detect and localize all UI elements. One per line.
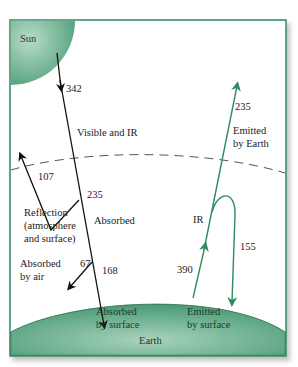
absorbed-by-surface-label-line-1: Absorbed xyxy=(96,306,138,317)
ir-label: IR xyxy=(193,214,204,225)
back-radiation-value: 155 xyxy=(240,241,256,252)
absorbed-by-air-value: 67 xyxy=(80,258,91,269)
emitted-by-earth-label-line-2: by Earth xyxy=(233,138,270,149)
absorbed-by-surface-value: 168 xyxy=(102,265,118,276)
reflected-value: 107 xyxy=(38,171,54,182)
absorbed-by-air-label-line-2: by air xyxy=(20,271,45,282)
emitted-by-surface-label-line-2: by surface xyxy=(187,319,231,330)
emitted-by-earth-label-line-1: Emitted xyxy=(233,125,267,136)
sun-label: Sun xyxy=(20,33,37,44)
energy-balance-diagram: Sun 342 Visible and IR 107 235 Reflectio… xyxy=(0,0,298,367)
reflection-label-line-2: (atmosphere xyxy=(24,220,76,232)
solar-input-value: 342 xyxy=(66,83,82,94)
absorbed-by-air-label-line-1: Absorbed xyxy=(20,258,62,269)
reflection-label-line-1: Reflection xyxy=(24,207,68,218)
absorbed-label: Absorbed xyxy=(94,215,136,226)
reflection-label-line-3: and surface) xyxy=(24,233,76,245)
absorbed-total-value: 235 xyxy=(87,189,103,200)
absorbed-by-surface-label-line-2: by surface xyxy=(96,319,140,330)
emitted-by-earth-value: 235 xyxy=(235,101,251,112)
emitted-by-surface-label-line-1: Emitted xyxy=(187,306,221,317)
earth-label: Earth xyxy=(139,335,162,346)
visible-ir-label: Visible and IR xyxy=(77,127,138,138)
emitted-by-surface-value: 390 xyxy=(177,264,193,275)
